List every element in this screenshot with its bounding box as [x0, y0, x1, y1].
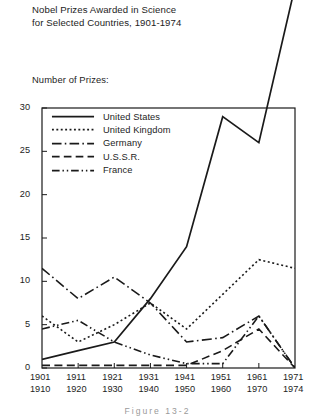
legend-label-france: France — [103, 165, 133, 175]
x-tick-label-start: 1971 — [283, 372, 303, 384]
y-tick-label: 30 — [8, 102, 30, 112]
legend-item-united-kingdom: United Kingdom — [50, 123, 171, 136]
x-tick-label-start: 1911 — [66, 372, 86, 384]
legend-key-solid — [50, 110, 96, 123]
legend-key-dash-dot — [50, 137, 96, 150]
x-tick-label-end: 1960 — [211, 384, 231, 396]
x-tick-label-end: 1930 — [102, 384, 122, 396]
x-tick-label-start: 1931 — [138, 372, 158, 384]
x-tick-label-end: 1970 — [247, 384, 267, 396]
x-tick-label: 19411950 — [175, 372, 195, 395]
y-tick-label: 5 — [8, 319, 30, 329]
series-line-united-states — [42, 0, 295, 359]
legend-item-united-states: United States — [50, 110, 171, 123]
legend-label-germany: Germany — [103, 138, 142, 148]
x-tick-label-start: 1961 — [247, 372, 267, 384]
x-tick-label: 19111920 — [66, 372, 86, 395]
legend-item-france: France — [50, 164, 171, 177]
figure-nobel-prizes: Nobel Prizes Awarded in Science for Sele… — [0, 0, 315, 419]
x-tick-label: 19211930 — [102, 372, 122, 395]
x-tick-label-end: 1950 — [175, 384, 195, 396]
legend-label-ussr: U.S.S.R. — [103, 152, 140, 162]
x-tick-label-start: 1951 — [211, 372, 231, 384]
x-tick-label: 19511960 — [211, 372, 231, 395]
x-tick-label-start: 1941 — [175, 372, 195, 384]
chart-legend: United States United Kingdom Germany U.S… — [50, 110, 171, 177]
legend-item-ussr: U.S.S.R. — [50, 150, 171, 163]
x-tick-label-start: 1901 — [30, 372, 50, 384]
series-line-germany — [42, 268, 295, 368]
legend-label-united-kingdom: United Kingdom — [103, 125, 171, 135]
legend-key-dashed — [50, 150, 96, 163]
y-tick-label: 10 — [8, 275, 30, 285]
y-tick-label: 20 — [8, 189, 30, 199]
series-line-u-s-s-r — [42, 329, 295, 368]
legend-label-united-states: United States — [103, 112, 160, 122]
legend-item-germany: Germany — [50, 137, 171, 150]
x-tick-label-end: 1940 — [138, 384, 158, 396]
y-tick-label: 0 — [8, 362, 30, 372]
x-tick-label-start: 1921 — [102, 372, 122, 384]
x-tick-label: 19711974 — [283, 372, 303, 395]
y-tick-label: 25 — [8, 145, 30, 155]
x-tick-label-end: 1920 — [66, 384, 86, 396]
chart-canvas — [0, 0, 315, 419]
x-tick-label: 19611970 — [247, 372, 267, 395]
x-tick-label: 19311940 — [138, 372, 158, 395]
x-tick-label: 19011910 — [30, 372, 50, 395]
legend-key-dash-dot-dot — [50, 164, 96, 177]
x-tick-label-end: 1974 — [283, 384, 303, 396]
data-series-layer — [42, 0, 295, 368]
x-tick-label-end: 1910 — [30, 384, 50, 396]
figure-caption: Figure 13-2 — [0, 406, 315, 416]
y-tick-label: 15 — [8, 232, 30, 242]
legend-key-dotted — [50, 123, 96, 136]
